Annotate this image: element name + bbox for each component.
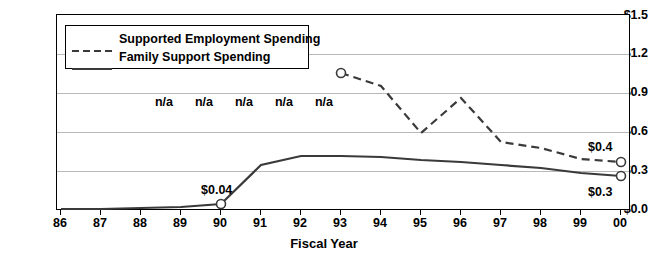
x-axis-tick-label: 92 [288, 216, 312, 230]
x-axis-tick-label: 87 [88, 216, 112, 230]
plot-area: n/a n/a n/a n/a n/a $0.04 $0.4 $0.3 Supp… [56, 14, 630, 210]
x-axis-tick-label: 97 [488, 216, 512, 230]
legend-label: Family Support Spending [119, 50, 270, 64]
data-point-marker [337, 69, 346, 78]
na-annotation: n/a [147, 95, 181, 109]
x-axis-tick-label: 98 [528, 216, 552, 230]
x-tick-mark [100, 210, 101, 215]
legend-label: Supported Employment Spending [119, 32, 320, 46]
legend-item-family-support: Family Support Spending [72, 48, 270, 66]
x-axis-tick-label: 95 [408, 216, 432, 230]
na-annotation: n/a [187, 95, 221, 109]
x-tick-mark [420, 210, 421, 215]
x-axis-tick-label: 99 [568, 216, 592, 230]
line-supported-employment-spending [341, 73, 621, 162]
x-axis-tick-label: 89 [168, 216, 192, 230]
x-tick-mark [340, 210, 341, 215]
x-tick-mark [500, 210, 501, 215]
x-axis-tick-label: 88 [128, 216, 152, 230]
x-axis-tick-label: 90 [208, 216, 232, 230]
x-axis-title: Fiscal Year [0, 236, 648, 251]
line-family-support-spending [61, 156, 621, 209]
x-axis-tick-label: 00 [608, 216, 632, 230]
na-annotation: n/a [267, 95, 301, 109]
x-tick-mark [580, 210, 581, 215]
x-axis-tick-label: 91 [248, 216, 272, 230]
legend: Supported Employment Spending Family Sup… [65, 25, 309, 69]
x-axis-tick-label: 86 [48, 216, 72, 230]
data-point-marker [217, 200, 226, 209]
na-annotation: n/a [227, 95, 261, 109]
data-point-marker [617, 172, 626, 181]
x-axis-tick-label: 93 [328, 216, 352, 230]
point-value-label: $0.3 [588, 185, 612, 199]
x-tick-mark [220, 210, 221, 215]
x-axis-tick-label: 94 [368, 216, 392, 230]
point-value-label: $0.4 [588, 140, 612, 154]
legend-item-supported-employment: Supported Employment Spending [72, 30, 320, 48]
x-tick-mark [260, 210, 261, 215]
x-tick-mark [380, 210, 381, 215]
x-tick-mark [60, 210, 61, 215]
x-tick-mark [540, 210, 541, 215]
x-tick-mark [620, 210, 621, 215]
x-tick-mark [460, 210, 461, 215]
point-value-label: $0.04 [201, 183, 232, 197]
x-tick-mark [140, 210, 141, 215]
data-point-marker [617, 158, 626, 167]
x-axis-tick-label: 96 [448, 216, 472, 230]
na-annotation: n/a [307, 95, 341, 109]
x-tick-mark [180, 210, 181, 215]
x-tick-mark [300, 210, 301, 215]
chart-container: $1.5 $1.2 $0.9 $0.6 $0.3 $0.0 n/a n/a n/… [0, 0, 648, 258]
